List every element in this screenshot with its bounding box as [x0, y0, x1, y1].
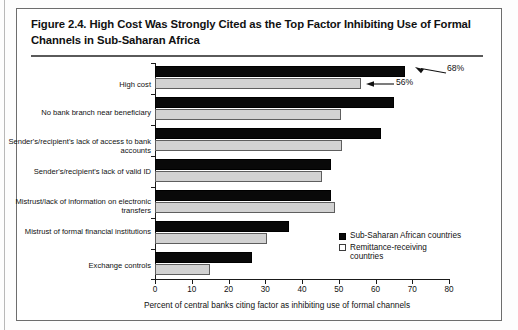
x-axis-tick — [265, 280, 266, 284]
bar-rr-lack-of-access — [155, 140, 342, 151]
legend-label-ssa: Sub-Saharan African countries — [350, 231, 461, 241]
x-axis-label-0: 0 — [142, 285, 168, 294]
legend-item-remittance: Remittance-receiving countries — [339, 243, 461, 262]
x-axis-label-50: 50 — [326, 285, 352, 294]
x-axis-tick — [192, 280, 193, 284]
annotation-arrow-56 — [365, 80, 395, 88]
bar-ssa-no-bank-branch — [155, 97, 394, 108]
x-axis-tick — [376, 280, 377, 284]
x-axis-label-30: 30 — [252, 285, 278, 294]
legend-swatch-light-icon — [339, 244, 346, 251]
x-axis-label-40: 40 — [289, 285, 315, 294]
figure-container: Figure 2.4. High Cost Was Strongly Cited… — [16, 8, 502, 321]
x-axis-tick — [155, 280, 156, 284]
category-label-lack-of-access: Sender's/recipient's lack of access to b… — [0, 137, 151, 156]
bar-rr-mistrust-electronic — [155, 202, 335, 213]
annotation-label-68: 68% — [447, 63, 464, 73]
category-label-mistrust-electronic: Mistrust/lack of information on electron… — [0, 197, 151, 216]
bar-ssa-mistrust-institutions — [155, 221, 289, 232]
x-axis-title: Percent of central banks citing factor a… — [67, 300, 487, 310]
bar-ssa-lack-of-access — [155, 128, 381, 139]
bar-ssa-high-cost — [155, 66, 405, 77]
bar-ssa-lack-of-valid-id — [155, 159, 331, 170]
category-label-high-cost: High cost — [0, 80, 151, 89]
bar-rr-mistrust-institutions — [155, 233, 267, 244]
chart-legend: Sub-Saharan African countries Remittance… — [339, 231, 461, 264]
x-axis-label-20: 20 — [216, 285, 242, 294]
category-label-no-bank-branch: No bank branch near beneficiary — [0, 108, 151, 117]
bar-rr-high-cost — [155, 78, 361, 89]
bar-rr-no-bank-branch — [155, 109, 341, 120]
figure-page: Figure 2.4. High Cost Was Strongly Cited… — [0, 0, 518, 330]
legend-label-remittance: Remittance-receiving countries — [350, 243, 442, 262]
x-axis-tick — [229, 280, 230, 284]
x-axis-label-60: 60 — [363, 285, 389, 294]
x-axis-tick — [412, 280, 413, 284]
bar-rr-exchange-controls — [155, 264, 210, 275]
x-axis-tick — [302, 280, 303, 284]
annotation-arrow-68 — [413, 67, 447, 75]
bar-ssa-exchange-controls — [155, 252, 252, 263]
category-label-mistrust-institutions: Mistrust of formal financial institution… — [0, 227, 151, 236]
x-axis-label-70: 70 — [399, 285, 425, 294]
category-label-exchange-controls: Exchange controls — [0, 261, 151, 270]
x-axis-tick — [449, 280, 450, 284]
x-axis-tick — [339, 280, 340, 284]
bar-rr-lack-of-valid-id — [155, 171, 322, 182]
legend-swatch-dark-icon — [339, 233, 346, 240]
bar-ssa-mistrust-electronic — [155, 190, 331, 201]
x-axis-label-80: 80 — [436, 285, 462, 294]
annotation-label-56: 56% — [396, 77, 413, 87]
x-axis-label-10: 10 — [179, 285, 205, 294]
category-axis-labels: High cost No bank branch near beneficiar… — [0, 9, 151, 322]
legend-item-ssa: Sub-Saharan African countries — [339, 231, 461, 241]
category-label-lack-of-valid-id: Sender's/recipient's lack of valid ID — [0, 167, 151, 176]
